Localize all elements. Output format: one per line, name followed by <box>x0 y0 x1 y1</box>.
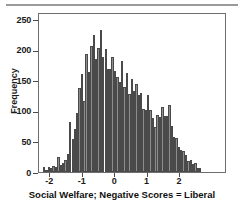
y-axis-tick-label: 50 <box>0 138 31 147</box>
y-axis-tick-mark <box>33 20 38 21</box>
plot-area <box>38 13 226 173</box>
y-axis-tick-label: 200 <box>0 46 31 55</box>
x-axis-tick-label: 1 <box>137 176 157 186</box>
y-axis-tick-mark <box>33 81 38 82</box>
y-axis-tick-label: 0 <box>0 169 31 178</box>
x-axis-title: Social Welfare; Negative Scores = Libera… <box>0 189 244 200</box>
y-axis-title: Frequency <box>9 56 19 126</box>
histogram-bars <box>39 14 225 172</box>
x-axis-tick-label: 0 <box>104 176 124 186</box>
y-axis-tick-mark <box>33 112 38 113</box>
histogram-bar <box>199 168 201 172</box>
x-axis-tick-label: -2 <box>39 176 59 186</box>
y-axis-tick-label: 250 <box>0 16 31 25</box>
y-axis-tick-mark <box>33 173 38 174</box>
x-axis-tick-label: 2 <box>169 176 189 186</box>
y-axis-tick-mark <box>33 51 38 52</box>
x-axis-tick-label: -1 <box>72 176 92 186</box>
chart-page: 050100150200250 Frequency -2-1012 Social… <box>0 0 244 207</box>
y-axis-tick-mark <box>33 142 38 143</box>
top-divider-rule <box>6 4 238 6</box>
